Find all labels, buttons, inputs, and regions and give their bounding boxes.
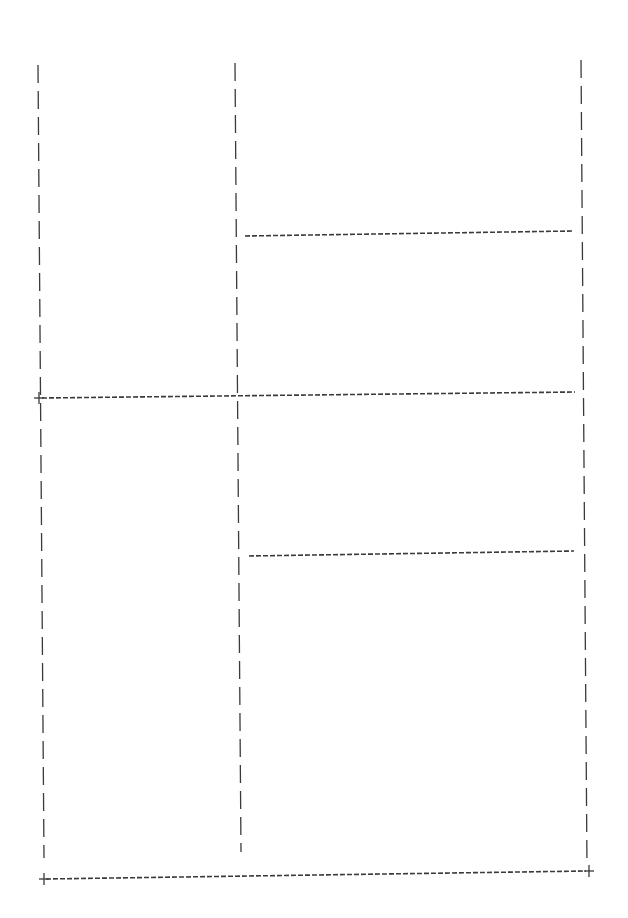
right-border-line: [581, 60, 587, 866]
lower-right-divider-line: [249, 551, 574, 556]
middle-divider-line: [235, 63, 241, 852]
horizontal-dashed-lines: [42, 231, 586, 879]
corner-plus-markers: [34, 392, 594, 885]
layout-grid-diagram: [0, 0, 628, 918]
left-border-line: [38, 65, 44, 858]
bottom-left-plus-icon: [39, 873, 49, 885]
vertical-dashed-lines: [38, 60, 587, 866]
bottom-border-line: [46, 871, 586, 879]
upper-right-divider-line: [245, 231, 572, 236]
mid-left-plus-icon: [34, 392, 44, 404]
bottom-right-plus-icon: [584, 865, 594, 877]
middle-full-divider-line: [42, 392, 575, 398]
